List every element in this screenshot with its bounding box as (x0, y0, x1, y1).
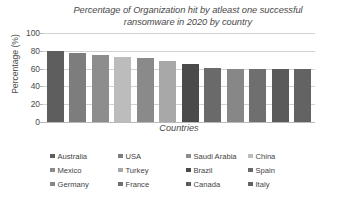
bar-mexico (137, 58, 154, 122)
bar-turkey (159, 61, 176, 122)
legend-item-canada[interactable]: Canada (186, 180, 248, 189)
legend-swatch-australia (50, 154, 55, 159)
legend-label-france: France (126, 180, 150, 189)
legend-item-china[interactable]: China (248, 152, 300, 161)
bar-france (249, 69, 266, 122)
legend-swatch-brazil (186, 168, 191, 173)
chart-title-line-1: Percentage of Organization hit by atleas… (73, 5, 302, 15)
legend-swatch-italy (248, 182, 253, 187)
legend-label-spain: Spain (256, 166, 275, 175)
legend-item-mexico[interactable]: Mexico (50, 166, 118, 175)
x-axis-title: Countries (43, 123, 315, 133)
legend-swatch-mexico (50, 168, 55, 173)
legend-item-usa[interactable]: USA (118, 152, 186, 161)
legend-label-china: China (256, 152, 276, 161)
legend-swatch-germany (50, 182, 55, 187)
legend-swatch-usa (118, 154, 123, 159)
chart-legend: AustraliaUSASaudi ArabiaChinaMexicoTurke… (50, 149, 300, 191)
y-axis-tick-100: 100 (14, 28, 40, 38)
plot-area: Percentage (%) 100806040200 Countries (0, 33, 339, 131)
legend-swatch-france (118, 182, 123, 187)
legend-swatch-turkey (118, 168, 123, 173)
y-axis-tick-labels: 100806040200 (14, 33, 40, 122)
bar-saudi-arabia (92, 55, 109, 122)
y-axis-tick-80: 80 (14, 46, 40, 56)
y-axis-tick-20: 20 (14, 99, 40, 109)
bar-canada (272, 69, 289, 122)
legend-label-usa: USA (126, 152, 142, 161)
legend-item-italy[interactable]: Italy (248, 180, 300, 189)
legend-item-germany[interactable]: Germany (50, 180, 118, 189)
legend-row-3: GermanyFranceCanadaItaly (50, 177, 300, 191)
bar-brazil (182, 64, 199, 122)
bar-germany (227, 69, 244, 122)
bar-usa (69, 53, 86, 122)
legend-label-saudi-arabia: Saudi Arabia (194, 152, 237, 161)
legend-swatch-saudi-arabia (186, 154, 191, 159)
legend-swatch-spain (248, 168, 253, 173)
legend-label-italy: Italy (256, 180, 270, 189)
chart-title-line-2: ransomware in 2020 by country (124, 17, 252, 27)
bar-australia (47, 51, 64, 122)
bar-italy (294, 69, 311, 122)
y-axis-tick-0: 0 (14, 117, 40, 127)
chart-title: Percentage of Organization hit by atleas… (42, 4, 334, 29)
legend-swatch-china (248, 154, 253, 159)
legend-item-australia[interactable]: Australia (50, 152, 118, 161)
legend-item-turkey[interactable]: Turkey (118, 166, 186, 175)
legend-label-turkey: Turkey (126, 166, 149, 175)
legend-label-australia: Australia (58, 152, 88, 161)
y-axis-tick-60: 60 (14, 64, 40, 74)
bar-chart-figure: Percentage of Organization hit by atleas… (0, 0, 339, 209)
legend-swatch-canada (186, 182, 191, 187)
legend-label-brazil: Brazil (194, 166, 213, 175)
legend-label-mexico: Mexico (58, 166, 82, 175)
legend-item-france[interactable]: France (118, 180, 186, 189)
bar-series (43, 33, 315, 122)
bar-china (114, 57, 131, 122)
bar-spain (204, 68, 221, 122)
legend-label-germany: Germany (58, 180, 89, 189)
legend-row-2: MexicoTurkeyBrazilSpain (50, 163, 300, 177)
legend-row-1: AustraliaUSASaudi ArabiaChina (50, 149, 300, 163)
legend-item-spain[interactable]: Spain (248, 166, 300, 175)
y-axis-tick-40: 40 (14, 81, 40, 91)
legend-item-brazil[interactable]: Brazil (186, 166, 248, 175)
legend-label-canada: Canada (194, 180, 221, 189)
legend-item-saudi-arabia[interactable]: Saudi Arabia (186, 152, 248, 161)
